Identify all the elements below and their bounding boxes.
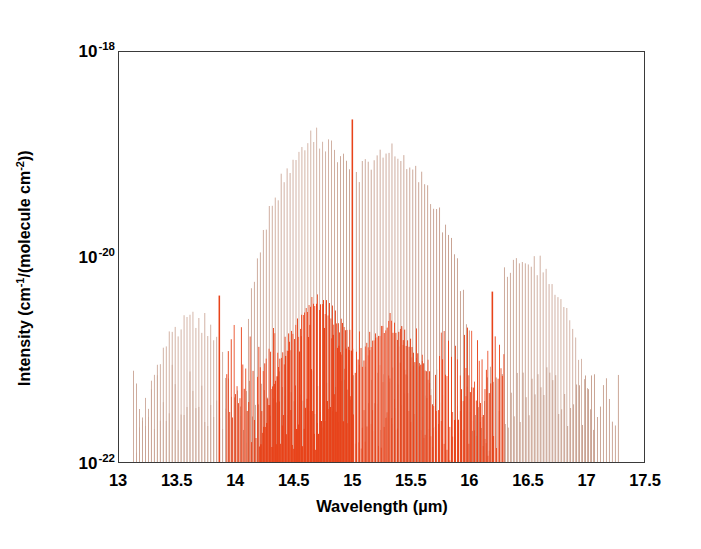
x-axis-tick-label: 17 [577,471,595,490]
y-tick-exponent: -20 [98,246,115,258]
x-axis-tick-label: 15 [343,471,361,490]
y-axis-tick-label: 10-20 [78,246,115,268]
x-axis-tick-label: 16.5 [512,471,543,490]
x-axis-tick-label: 15.5 [395,471,426,490]
y-title-text: Intensity (cm [16,287,33,386]
y-title-exponent: -1 [14,278,26,288]
y-title-text: )) [16,150,33,161]
y-title-text: /(molecule cm [16,171,33,278]
y-tick-mantissa: 10 [78,248,97,267]
x-axis-tick-label: 17.5 [629,471,660,490]
y-axis-tick-label-group: 10-18 10-20 10-22 Intensity (cm-1/(molec… [0,0,115,549]
figure-root: 10-18 10-20 10-22 Intensity (cm-1/(molec… [0,0,701,549]
x-axis-tick-label: 14.5 [278,471,309,490]
y-tick-exponent: -18 [98,40,115,52]
x-axis-tick-label: 16 [460,471,478,490]
x-axis-tick-label: 13 [109,471,127,490]
spectrum-plot-canvas [119,52,644,462]
x-axis-tick-label: 14 [226,471,244,490]
plot-area [118,51,645,463]
y-axis-tick-label: 10-18 [78,40,115,62]
x-axis-tick-label: 13.5 [161,471,192,490]
y-axis-title: Intensity (cm-1/(molecule cm-2)) [14,98,34,438]
y-tick-mantissa: 10 [78,454,97,473]
y-title-exponent: -2 [14,161,26,171]
y-tick-mantissa: 10 [78,42,97,61]
y-tick-exponent: -22 [98,452,115,464]
x-axis-title: Wavelength (µm) [316,497,448,516]
